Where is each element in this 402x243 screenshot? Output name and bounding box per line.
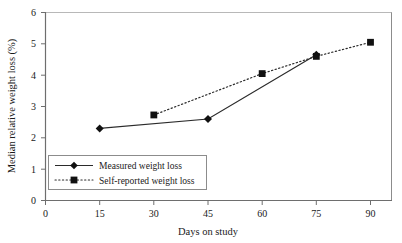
x-tick-label-0: 0 bbox=[43, 208, 48, 219]
y-tick-label-0: 0 bbox=[31, 195, 36, 206]
chart-background bbox=[0, 0, 402, 243]
legend-label-measured: Measured weight loss bbox=[99, 161, 182, 171]
y-tick-label-6: 6 bbox=[31, 7, 36, 18]
x-tick-label-60: 60 bbox=[257, 208, 267, 219]
square-marker bbox=[259, 70, 266, 77]
x-tick-label-45: 45 bbox=[203, 208, 213, 219]
x-axis-title: Days on study bbox=[178, 226, 239, 237]
y-tick-label-1: 1 bbox=[31, 164, 36, 175]
legend-label-self-reported: Self-reported weight loss bbox=[99, 176, 195, 186]
x-tick-label-75: 75 bbox=[311, 208, 321, 219]
square-marker bbox=[313, 53, 320, 60]
y-tick-label-5: 5 bbox=[31, 38, 36, 49]
chart-container: 0 1 2 3 4 5 6 Median relative weight los… bbox=[0, 0, 402, 243]
x-tick-label-30: 30 bbox=[149, 208, 159, 219]
x-tick-label-15: 15 bbox=[95, 208, 105, 219]
square-icon bbox=[71, 177, 78, 184]
chart-legend: Measured weight loss Self-reported weigh… bbox=[49, 156, 207, 190]
y-tick-label-3: 3 bbox=[31, 101, 36, 112]
x-tick-label-90: 90 bbox=[366, 208, 376, 219]
square-marker bbox=[367, 39, 374, 46]
y-axis-title: Median relative weight loss (%) bbox=[6, 38, 18, 173]
y-tick-label-2: 2 bbox=[31, 132, 36, 143]
square-marker bbox=[150, 112, 157, 119]
y-tick-label-4: 4 bbox=[31, 70, 36, 81]
line-chart: 0 1 2 3 4 5 6 Median relative weight los… bbox=[0, 0, 402, 243]
